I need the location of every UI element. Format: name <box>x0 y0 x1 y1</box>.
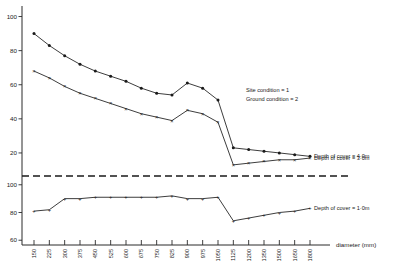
x-tick-label: 1350 <box>261 249 267 261</box>
data-point-marker <box>217 99 220 102</box>
data-point-marker: × <box>201 111 204 117</box>
y-tick-label: 100 <box>7 181 18 188</box>
data-point-marker: × <box>293 157 296 163</box>
x-tick-label: 150 <box>31 249 37 258</box>
x-tick-label: 1650 <box>292 249 298 261</box>
data-point-marker: + <box>32 208 35 214</box>
x-tick-label: 975 <box>200 249 206 258</box>
chart-container: 1008060402010080601502253003754505256006… <box>0 0 401 268</box>
legend-label-3: Depth of cover = 1·0m <box>314 205 370 211</box>
x-tick-label: 525 <box>108 249 114 258</box>
data-point-marker: × <box>94 95 97 101</box>
data-point-marker: × <box>262 158 265 164</box>
data-point-marker: + <box>308 205 311 211</box>
y-tick-label: 40 <box>10 115 17 122</box>
data-point-marker: + <box>124 194 127 200</box>
data-point-marker <box>201 87 204 90</box>
x-tick-label: 450 <box>92 249 98 258</box>
data-point-marker <box>48 44 51 47</box>
data-point-marker: + <box>94 194 97 200</box>
legend-label-2: Depth of cover = 3·0m <box>314 155 370 161</box>
line-chart: 1008060402010080601502253003754505256006… <box>0 0 401 268</box>
data-point-marker: + <box>201 196 204 202</box>
data-point-marker <box>263 150 266 153</box>
data-point-marker <box>94 70 97 73</box>
y-tick-label: 60 <box>10 236 17 243</box>
data-point-marker: × <box>186 107 189 113</box>
data-point-marker: + <box>293 208 296 214</box>
data-point-marker: + <box>63 196 66 202</box>
data-point-marker: × <box>216 119 219 125</box>
data-point-marker <box>186 82 189 85</box>
y-tick-label: 80 <box>10 47 17 54</box>
data-point-marker: × <box>170 118 173 124</box>
data-point-marker: + <box>78 196 81 202</box>
data-point-marker: + <box>109 194 112 200</box>
y-tick-label: 60 <box>10 81 17 88</box>
data-point-marker: + <box>186 196 189 202</box>
data-point-marker: × <box>308 155 311 161</box>
data-point-marker: × <box>278 157 281 163</box>
data-point-marker: × <box>124 106 127 112</box>
data-point-marker: + <box>216 194 219 200</box>
data-point-marker <box>79 63 82 66</box>
data-point-marker <box>33 32 36 35</box>
x-tick-label: 750 <box>154 249 160 258</box>
y-tick-label: 100 <box>7 13 18 20</box>
data-point-marker: + <box>170 193 173 199</box>
data-point-marker <box>293 153 296 156</box>
data-point-marker: + <box>232 218 235 224</box>
x-tick-label: 825 <box>169 249 175 258</box>
data-point-marker <box>125 80 128 83</box>
data-point-marker: × <box>48 75 51 81</box>
data-point-marker: × <box>232 162 235 168</box>
x-tick-label: 1125 <box>230 249 236 261</box>
data-point-marker: + <box>140 194 143 200</box>
y-tick-label: 20 <box>10 149 17 156</box>
data-point-marker: × <box>109 100 112 106</box>
data-point-marker: × <box>140 111 143 117</box>
x-tick-label: 375 <box>77 249 83 258</box>
data-point-marker <box>171 93 174 96</box>
x-tick-label: 1800 <box>307 249 313 261</box>
annotation-text-1: Site condition = 1 <box>246 87 289 93</box>
data-point-marker: × <box>63 83 66 89</box>
data-point-marker: + <box>48 207 51 213</box>
data-point-marker: + <box>262 212 265 218</box>
data-point-marker <box>63 54 66 57</box>
data-point-marker: × <box>247 160 250 166</box>
data-point-marker <box>232 146 235 149</box>
data-point-marker <box>140 87 143 90</box>
data-point-marker <box>247 148 250 151</box>
x-tick-label: 1500 <box>276 249 282 261</box>
series-line-3 <box>34 196 310 221</box>
chart-axes <box>22 6 330 245</box>
x-tick-label: 225 <box>46 249 52 258</box>
data-point-marker: × <box>32 68 35 74</box>
x-tick-label: 900 <box>184 249 190 258</box>
data-point-marker: + <box>278 210 281 216</box>
x-tick-label: 300 <box>62 249 68 258</box>
data-point-marker: + <box>247 215 250 221</box>
annotation-text-2: Ground condition = 2 <box>246 96 298 102</box>
x-tick-label: 1200 <box>246 249 252 261</box>
data-point-marker <box>109 75 112 78</box>
data-point-marker <box>155 92 158 95</box>
data-point-marker: + <box>155 194 158 200</box>
x-tick-label: 675 <box>138 249 144 258</box>
data-point-marker: × <box>78 90 81 96</box>
x-tick-label: 600 <box>123 249 129 258</box>
x-tick-label: 1050 <box>215 249 221 261</box>
x-axis-title: diameter (mm) <box>336 241 376 248</box>
y-tick-label: 80 <box>10 209 17 216</box>
data-point-marker <box>278 151 281 154</box>
data-point-marker: × <box>155 114 158 120</box>
